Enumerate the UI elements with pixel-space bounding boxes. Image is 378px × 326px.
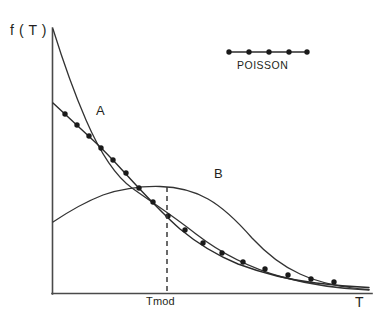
curve-poisson-path	[53, 103, 369, 288]
poisson-marker	[308, 276, 313, 281]
poisson-marker	[150, 199, 155, 204]
curve-b-path	[53, 186, 369, 289]
poisson-marker	[98, 145, 103, 150]
legend-marker	[286, 49, 291, 54]
legend-marker	[304, 49, 309, 54]
curve-a-label: A	[96, 104, 105, 117]
poisson-marker	[110, 157, 115, 162]
legend-marker	[246, 49, 251, 54]
tmod-tick-label: Tmod	[146, 296, 175, 307]
poisson-marker	[200, 240, 205, 245]
poisson-marker	[74, 122, 79, 127]
poisson-marker	[182, 227, 187, 232]
poisson-marker	[62, 111, 67, 116]
poisson-marker	[165, 213, 170, 218]
poisson-marker	[262, 266, 267, 271]
legend-group	[226, 49, 309, 54]
legend-poisson-label: POISSON	[237, 60, 288, 71]
curve-b-label: B	[214, 167, 223, 180]
poisson-marker	[285, 272, 290, 277]
chart-figure: f ( T ) T Tmod A B POISSON	[0, 0, 378, 326]
poisson-marker	[136, 185, 141, 190]
axes-group	[52, 28, 372, 294]
poisson-marker	[331, 279, 336, 284]
x-axis-label: T	[355, 295, 364, 309]
legend-marker	[266, 49, 271, 54]
poisson-marker	[86, 133, 91, 138]
legend-marker	[226, 49, 231, 54]
plot-area	[0, 0, 378, 326]
y-axis-label: f ( T )	[10, 23, 47, 37]
poisson-marker	[123, 170, 128, 175]
poisson-marker	[219, 250, 224, 255]
poisson-marker	[240, 259, 245, 264]
poisson-markers	[62, 111, 336, 284]
